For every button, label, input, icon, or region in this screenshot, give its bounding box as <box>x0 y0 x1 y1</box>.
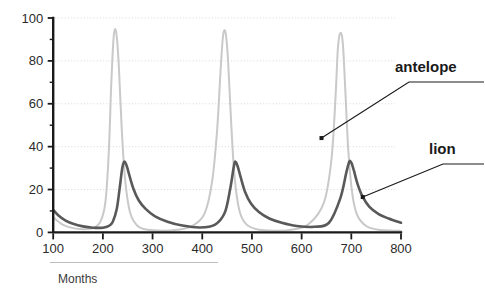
leader-dot-antelope <box>320 136 324 140</box>
series-label-lion: lion <box>429 140 456 157</box>
gridlines-group <box>55 18 395 190</box>
x-axis-ticks-group <box>53 233 401 239</box>
y-tick-label-40: 40 <box>29 139 43 154</box>
y-tick-label-60: 60 <box>29 96 43 111</box>
leader-dot-lion <box>361 195 365 199</box>
y-tick-label-100: 100 <box>21 11 43 26</box>
x-tick-label-400: 400 <box>191 241 213 256</box>
y-tick-label-0: 0 <box>36 225 43 240</box>
leader-line-lion <box>363 164 484 197</box>
predator-prey-line-chart: 020406080100 100200300400500600700800 an… <box>0 0 485 300</box>
y-axis-tick-labels-group: 020406080100 <box>21 11 43 240</box>
x-tick-label-200: 200 <box>92 241 114 256</box>
x-axis-tick-labels-group: 100200300400500600700800 <box>42 241 412 256</box>
y-tick-label-20: 20 <box>29 182 43 197</box>
y-axis-ticks-group <box>48 18 53 232</box>
x-tick-label-300: 300 <box>142 241 164 256</box>
series-label-antelope: antelope <box>395 58 457 75</box>
x-tick-label-600: 600 <box>291 241 313 256</box>
x-tick-label-500: 500 <box>241 241 263 256</box>
y-tick-label-80: 80 <box>29 53 43 68</box>
x-axis-caption: Months <box>58 272 97 286</box>
series-paths-group <box>53 29 401 231</box>
x-tick-label-100: 100 <box>42 241 64 256</box>
x-tick-label-800: 800 <box>390 241 412 256</box>
x-tick-label-700: 700 <box>340 241 362 256</box>
chart-figure: 020406080100 100200300400500600700800 an… <box>0 0 485 300</box>
